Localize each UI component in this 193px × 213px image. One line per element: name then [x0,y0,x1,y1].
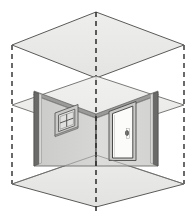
right-wall-end-post-highlight [151,94,154,165]
left-wall-end-post-highlight [39,94,42,165]
door[interactable] [109,102,136,161]
room-diagram-svg [0,0,193,213]
door-handle[interactable] [125,130,128,135]
ceiling-slab [12,12,184,78]
ceiling-slab-plane [12,12,184,78]
right-wall-end-post [153,92,158,166]
isometric-room-figure: Ceiling slab Room ceiling Floor slab Lef… [0,0,193,213]
left-wall-end-post [34,92,39,166]
